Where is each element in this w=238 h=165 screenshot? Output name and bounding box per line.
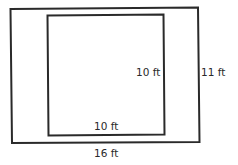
outer-width-label: 16 ft [94, 147, 118, 159]
inner-height-label: 10 ft [136, 66, 160, 78]
outer-height-label: 11 ft [201, 66, 225, 78]
diagram-canvas: 10 ft 11 ft 10 ft 16 ft [0, 0, 238, 165]
inner-width-label: 10 ft [94, 120, 118, 132]
